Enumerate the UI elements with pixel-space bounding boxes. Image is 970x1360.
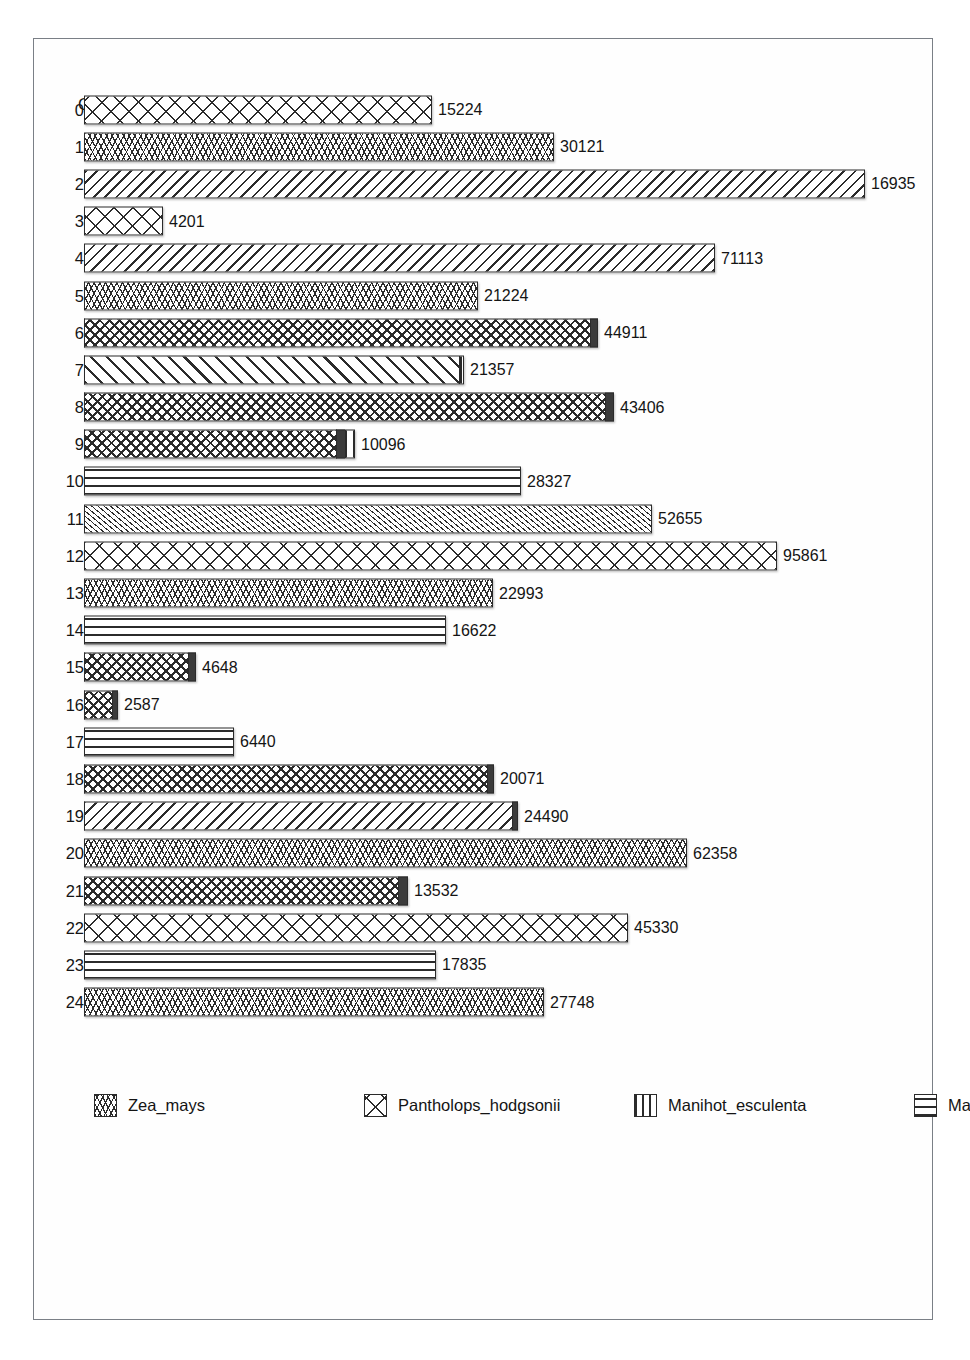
stacked-bar[interactable]	[84, 839, 687, 868]
bar-segment-pantholops-hodgsonii[interactable]	[84, 913, 628, 942]
bar-segment-pantholops-hodgsonii[interactable]	[84, 207, 163, 236]
bar-segment-pantholops-hodgsonii[interactable]	[84, 541, 777, 570]
stacked-bar[interactable]	[84, 244, 715, 273]
bar-segment-bacteroides-dorei[interactable]	[336, 430, 345, 459]
stacked-bar[interactable]	[84, 467, 521, 496]
bar-value-label: 43406	[620, 398, 665, 416]
bar-segment-bos-taurus[interactable]	[84, 802, 512, 831]
bar-segment-bacteroides-dorei[interactable]	[605, 393, 614, 422]
bar-value-label: 24490	[524, 807, 569, 825]
stacked-bar[interactable]	[84, 504, 652, 533]
bar-segment-ebola[interactable]	[84, 504, 652, 533]
legend-item-label: Zea_mays	[128, 1096, 205, 1115]
bar-segment-zea-mays[interactable]	[84, 988, 544, 1017]
legend-item[interactable]: Zea_mays	[94, 1087, 364, 1123]
bar-row-category-label: 6	[75, 323, 84, 342]
bar-segment-zea-mays[interactable]	[84, 839, 687, 868]
bar-row-category-label: 22	[66, 918, 84, 937]
bar-value-label: 62358	[693, 844, 738, 862]
stacked-bar[interactable]	[84, 653, 196, 682]
bar-container: 15224	[84, 95, 483, 124]
bar-container: 6440	[84, 727, 276, 756]
bar-value-label: 2587	[124, 696, 160, 714]
bar-segment-zea-mays[interactable]	[84, 281, 478, 310]
bar-row-category-label: 15	[66, 658, 84, 677]
bar-container: 16622	[84, 616, 497, 645]
bar-segment-ascaris[interactable]	[84, 430, 336, 459]
bar-segment-ascaris[interactable]	[84, 690, 112, 719]
bar-row-category-label: 16	[66, 695, 84, 714]
stacked-bar[interactable]	[84, 876, 408, 905]
bar-row-category-label: 14	[66, 621, 84, 640]
bar-row: 1924490	[34, 798, 932, 835]
stacked-bar[interactable]	[84, 169, 865, 198]
bar-segment-glossina-morsitans[interactable]	[84, 355, 459, 384]
bar-segment-bacteroides-dorei[interactable]	[112, 690, 118, 719]
legend-swatch-zea-mays	[94, 1094, 117, 1117]
bar-segment-zea-mays[interactable]	[84, 132, 554, 161]
bar-container: 21224	[84, 281, 529, 310]
bar-row: 471113	[34, 240, 932, 277]
legend-item-label: Manihot_esculenta	[668, 1096, 807, 1115]
stacked-bar[interactable]	[84, 430, 355, 459]
bar-segment-bacteroides-dorei[interactable]	[487, 764, 494, 793]
bar-value-label: 22993	[499, 584, 544, 602]
bar-row: 2113532	[34, 872, 932, 909]
bar-segment-ascaris[interactable]	[84, 876, 398, 905]
stacked-bar[interactable]	[84, 802, 518, 831]
legend-item[interactable]: Malus_domestica	[914, 1087, 970, 1123]
bar-segment-ascaris[interactable]	[84, 393, 605, 422]
stacked-bar[interactable]	[84, 988, 544, 1017]
stacked-bar[interactable]	[84, 764, 494, 793]
legend-item[interactable]: Manihot_esculenta	[634, 1087, 914, 1123]
bar-segment-manihot-esculenta[interactable]	[459, 355, 464, 384]
bar-segment-bacteroides-dorei[interactable]	[188, 653, 196, 682]
bar-container: 43406	[84, 393, 665, 422]
bar-container: 21357	[84, 355, 515, 384]
bar-row: 1295861	[34, 537, 932, 574]
bar-value-label: 20071	[500, 770, 545, 788]
bar-segment-ascaris[interactable]	[84, 764, 487, 793]
stacked-bar[interactable]	[84, 579, 493, 608]
bar-segment-bos-taurus[interactable]	[84, 244, 715, 273]
stacked-bar[interactable]	[84, 727, 234, 756]
stacked-bar[interactable]	[84, 132, 554, 161]
bar-segment-bacteroides-dorei[interactable]	[590, 318, 598, 347]
bar-value-label: 4648	[202, 658, 238, 676]
legend-swatch-pantholops-hodgsonii	[364, 1094, 387, 1117]
bar-segment-pantholops-hodgsonii[interactable]	[84, 95, 432, 124]
stacked-bar[interactable]	[84, 393, 614, 422]
bar-segment-bacteroides-dorei[interactable]	[512, 802, 518, 831]
stacked-bar[interactable]	[84, 355, 464, 384]
bar-row: 521224	[34, 277, 932, 314]
legend-item[interactable]: Pantholops_hodgsonii	[364, 1087, 634, 1123]
stacked-bar[interactable]	[84, 950, 436, 979]
bar-segment-zea-mays[interactable]	[84, 579, 493, 608]
bar-segment-ascaris[interactable]	[84, 318, 590, 347]
stacked-bar[interactable]	[84, 541, 777, 570]
legend-item-label: Malus_domestica	[948, 1096, 970, 1115]
stacked-bar[interactable]	[84, 95, 432, 124]
bar-row: 2245330	[34, 909, 932, 946]
bar-row-category-label: 18	[66, 769, 84, 788]
bar-row: 843406	[34, 389, 932, 426]
bar-segment-malus-domestica[interactable]	[84, 467, 521, 496]
stacked-bar[interactable]	[84, 207, 163, 236]
bar-segment-ascaris[interactable]	[84, 653, 188, 682]
bar-segment-malus-domestica[interactable]	[84, 616, 446, 645]
bar-container: 10096	[84, 430, 406, 459]
stacked-bar[interactable]	[84, 281, 478, 310]
bar-row-category-label: 3	[75, 212, 84, 231]
stacked-bar[interactable]	[84, 690, 118, 719]
bar-container: 24490	[84, 802, 569, 831]
stacked-bar[interactable]	[84, 616, 446, 645]
bar-segment-malus-domestica[interactable]	[84, 727, 234, 756]
bar-segment-malus-domestica[interactable]	[84, 950, 436, 979]
bar-segment-bos-taurus[interactable]	[84, 169, 865, 198]
stacked-bar[interactable]	[84, 318, 598, 347]
stacked-bar[interactable]	[84, 913, 628, 942]
bar-segment-bacteroides-dorei[interactable]	[398, 876, 408, 905]
bar-value-label: 15224	[438, 101, 483, 119]
bar-segment-manihot-esculenta[interactable]	[345, 430, 355, 459]
bar-row: 1322993	[34, 574, 932, 611]
